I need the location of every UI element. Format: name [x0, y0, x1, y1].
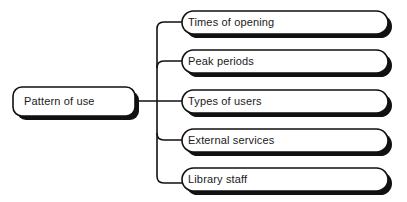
node-root[interactable]: [13, 87, 135, 116]
node-times-of-opening[interactable]: [182, 11, 388, 34]
node-external-services[interactable]: [182, 129, 388, 152]
connector-branch-1: [157, 61, 182, 68]
node-library-staff[interactable]: [182, 168, 388, 191]
connector-branch-4: [157, 176, 182, 183]
node-types-of-users[interactable]: [182, 90, 388, 113]
node-peak-periods[interactable]: [182, 50, 388, 73]
connector-branch-3: [157, 133, 182, 140]
diagram-canvas: Pattern of use Times of opening Peak per…: [0, 0, 407, 202]
connector-lines: [135, 22, 182, 183]
connector-branch-0: [157, 22, 182, 29]
